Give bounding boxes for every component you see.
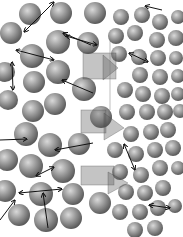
large-sphere [84,2,106,24]
small-sphere [107,142,123,158]
small-sphere [169,51,183,65]
large-sphere [38,133,62,157]
small-sphere [160,122,176,138]
small-sphere [119,104,135,120]
large-sphere [46,60,70,84]
small-sphere [135,86,151,102]
small-sphere [150,50,166,66]
overlay-box [81,110,106,133]
small-sphere [139,104,155,120]
large-sphere [29,182,53,206]
large-sphere [62,183,84,205]
large-sphere [19,3,41,25]
small-sphere [147,220,163,236]
small-sphere [112,204,128,220]
small-sphere [127,25,143,41]
small-sphere [149,32,165,48]
large-sphere [0,22,22,44]
small-sphere [132,204,148,220]
large-sphere [44,93,66,115]
small-sphere [133,167,149,183]
large-sphere [51,159,75,183]
small-sphere [154,88,170,104]
small-sphere [152,69,168,85]
sphere-packing-diagram [0,0,183,237]
small-sphere [152,160,168,176]
small-sphere [131,49,147,65]
large-sphere [14,122,38,146]
small-sphere [150,200,166,216]
small-sphere [155,180,171,196]
small-sphere [143,124,159,140]
diagram-canvas [0,0,183,237]
small-sphere [134,7,150,23]
small-sphere [168,199,182,213]
small-sphere [137,185,153,201]
small-sphere [152,14,168,30]
large-sphere [89,192,111,214]
large-sphere [77,32,99,54]
small-sphere [157,104,173,120]
large-sphere [22,100,44,122]
small-sphere [132,67,148,83]
small-sphere [165,140,181,156]
small-sphere [113,9,129,25]
large-sphere [60,207,82,229]
large-sphere [23,71,45,93]
large-sphere [46,30,70,54]
large-sphere [50,2,72,24]
small-sphere [117,82,133,98]
large-sphere [8,204,30,226]
small-sphere [147,142,163,158]
small-sphere [123,126,139,142]
